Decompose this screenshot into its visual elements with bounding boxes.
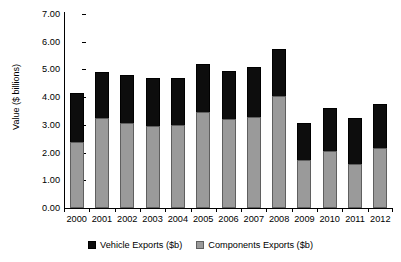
bar-group[interactable] <box>297 123 311 208</box>
y-tick-label: 3.00 <box>26 120 60 129</box>
x-tick-mark <box>64 208 65 212</box>
bar-segment-vehicle <box>348 118 362 164</box>
x-tick-mark <box>191 208 192 212</box>
x-tick-mark <box>165 208 166 212</box>
y-tick-label: 7.00 <box>26 10 60 19</box>
bar-segment-components <box>272 96 286 208</box>
x-tick-mark <box>368 208 369 212</box>
bar-segment-components <box>196 112 210 208</box>
bar-group[interactable] <box>171 78 185 208</box>
bar-segment-components <box>146 126 160 208</box>
x-tick-mark <box>342 208 343 212</box>
x-tick-mark <box>89 208 90 212</box>
x-tick-mark <box>392 208 393 212</box>
chart-container: Value ($ billions) 0.001.002.003.004.005… <box>0 0 401 262</box>
y-tick-label: 0.00 <box>26 204 60 213</box>
y-tick-label: 5.00 <box>26 65 60 74</box>
legend-label-components: Components Exports ($b) <box>208 240 313 250</box>
bar-segment-vehicle <box>171 78 185 125</box>
bar-segment-components <box>70 142 84 209</box>
bar-segment-vehicle <box>373 104 387 148</box>
bar-segment-vehicle <box>120 75 134 124</box>
x-tick-mark <box>115 208 116 212</box>
y-tick-label: 6.00 <box>26 37 60 46</box>
x-tick-mark <box>216 208 217 212</box>
bar-segment-vehicle <box>70 93 84 142</box>
x-tick-mark <box>140 208 141 212</box>
bar-segment-vehicle <box>297 123 311 159</box>
bar-group[interactable] <box>95 72 109 208</box>
bar-segment-vehicle <box>323 108 337 151</box>
legend-label-vehicle: Vehicle Exports ($b) <box>100 240 182 250</box>
bar-segment-components <box>348 164 362 208</box>
bar-group[interactable] <box>196 64 210 208</box>
x-tick-mark <box>241 208 242 212</box>
y-tick-label: 2.00 <box>26 148 60 157</box>
bar-segment-vehicle <box>196 64 210 113</box>
y-tick-label: 1.00 <box>26 176 60 185</box>
x-tick-mark <box>292 208 293 212</box>
bar-group[interactable] <box>272 49 286 208</box>
bar-segment-components <box>373 148 387 208</box>
bar-segment-components <box>120 123 134 208</box>
y-axis-ticks: 0.001.002.003.004.005.006.007.00 <box>22 0 60 262</box>
bars-layer: 2000200120022003200420052006200720082009… <box>64 0 393 262</box>
legend-swatch-vehicle-icon <box>88 241 96 249</box>
x-tick-mark <box>317 208 318 212</box>
bar-segment-components <box>171 125 185 208</box>
legend-item-vehicle[interactable]: Vehicle Exports ($b) <box>88 240 182 250</box>
bar-group[interactable] <box>120 75 134 208</box>
bar-segment-vehicle <box>95 72 109 118</box>
legend-item-components[interactable]: Components Exports ($b) <box>196 240 313 250</box>
bar-segment-components <box>222 119 236 208</box>
x-tick-label: 2012 <box>360 214 400 225</box>
y-tick-label: 4.00 <box>26 93 60 102</box>
bar-segment-components <box>95 118 109 208</box>
bar-group[interactable] <box>222 71 236 208</box>
bar-segment-vehicle <box>272 49 286 96</box>
bar-segment-components <box>297 160 311 209</box>
bar-group[interactable] <box>146 78 160 208</box>
legend-swatch-components-icon <box>196 241 204 249</box>
chart-legend: Vehicle Exports ($b) Components Exports … <box>0 240 401 250</box>
bar-group[interactable] <box>247 67 261 208</box>
bar-group[interactable] <box>323 108 337 208</box>
bar-segment-vehicle <box>247 67 261 117</box>
bar-segment-components <box>323 151 337 208</box>
y-axis-title: Value ($ billions) <box>11 37 21 157</box>
bar-segment-vehicle <box>222 71 236 120</box>
bar-group[interactable] <box>373 104 387 208</box>
bar-segment-vehicle <box>146 78 160 127</box>
bar-segment-components <box>247 117 261 208</box>
bar-group[interactable] <box>348 118 362 208</box>
bar-group[interactable] <box>70 93 84 208</box>
x-tick-mark <box>266 208 267 212</box>
